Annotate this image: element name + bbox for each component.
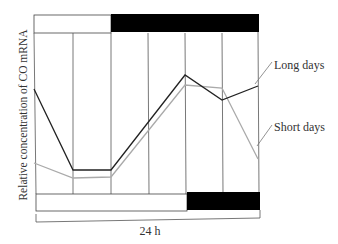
bottom-light-bar: [36, 194, 187, 211]
short-days-leader: [257, 125, 272, 146]
24h-bracket: [36, 210, 260, 222]
top-dark-bar: [111, 14, 259, 32]
gridlines: [34, 32, 259, 194]
y-axis-label: Relative concentration of CO mRNA: [17, 29, 29, 201]
short-days-label: Short days: [274, 120, 325, 134]
co-mrna-chart: Long days Short days Relative concentrat…: [0, 0, 338, 244]
long-days-leader: [255, 62, 272, 84]
top-light-bar: [34, 15, 111, 33]
x-axis-label: 24 h: [140, 224, 161, 238]
long-days-label: Long days: [274, 58, 325, 72]
bottom-dark-bar: [187, 192, 260, 210]
long-days-line: [34, 75, 258, 170]
